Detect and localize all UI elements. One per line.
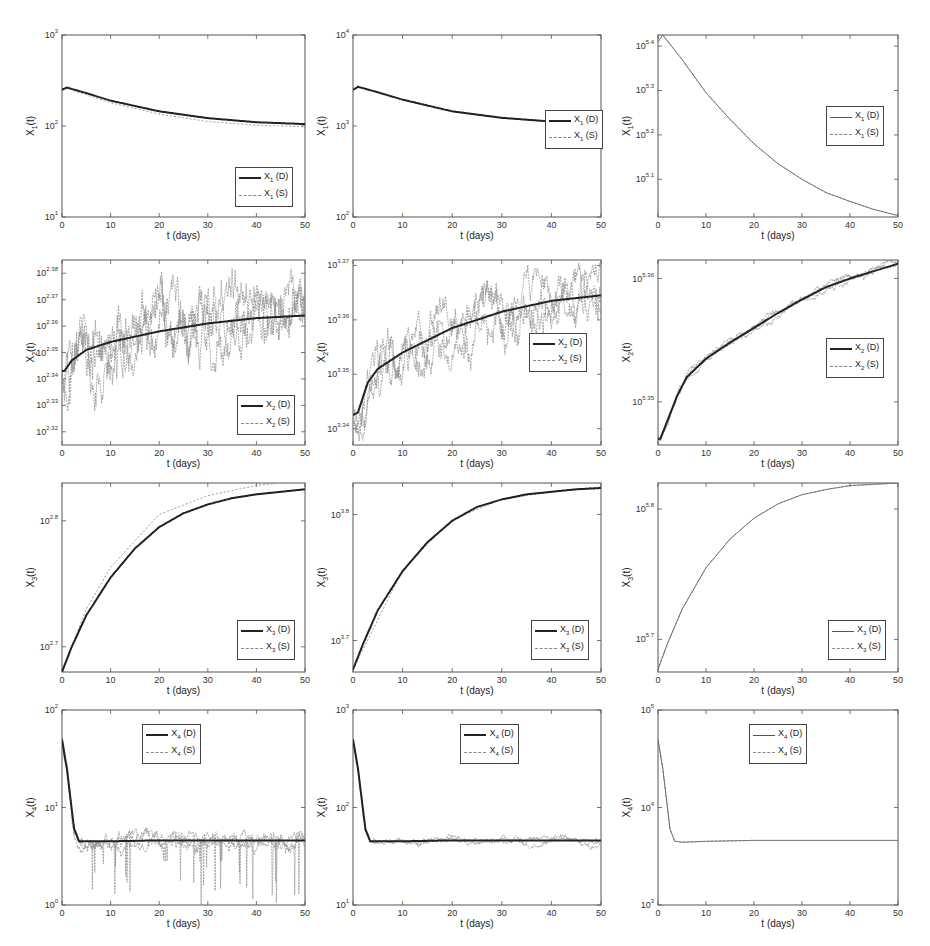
legend-entry: X1 (S)	[239, 187, 288, 204]
x-tick-label: 30	[203, 220, 213, 230]
x-tick-label: 20	[447, 675, 457, 685]
x-tick-label: 30	[497, 675, 507, 685]
x-tick-label: 10	[701, 448, 711, 458]
legend-label: X1 (S)	[574, 129, 598, 146]
x-tick-label: 50	[893, 220, 903, 230]
legend-entry: X4 (D)	[753, 727, 802, 744]
x-tick-label: 0	[59, 675, 64, 685]
x-tick-label: 20	[154, 448, 164, 458]
x-tick-label: 20	[749, 448, 759, 458]
legend-label: X3 (S)	[857, 640, 881, 657]
x-axis-label: t (days)	[460, 918, 493, 929]
x-tick-label: 40	[251, 675, 261, 685]
y-tick-label: 105.35	[632, 395, 654, 407]
x-axis-label: t (days)	[761, 458, 794, 469]
legend-label: X3 (S)	[560, 640, 584, 657]
y-tick-label: 103.8	[331, 508, 350, 520]
x-tick-label: 50	[300, 220, 310, 230]
x-tick-label: 0	[350, 908, 355, 918]
legend-entry: X4 (S)	[753, 744, 802, 761]
legend-entry: X3 (D)	[241, 623, 290, 640]
legend: X2 (D)X2 (S)	[529, 333, 587, 373]
y-tick-label: 103.35	[327, 367, 349, 379]
legend-entry: X2 (D)	[241, 398, 290, 415]
x-axis-label: t (days)	[167, 458, 200, 469]
legend: X1 (D)X1 (S)	[545, 110, 603, 150]
y-tick-label: 102.7	[40, 640, 59, 652]
legend: X4 (D)X4 (S)	[460, 724, 518, 764]
x-tick-label: 10	[398, 675, 408, 685]
x-tick-label: 10	[701, 908, 711, 918]
legend-entry: X3 (S)	[241, 640, 290, 657]
x-axis-label: t (days)	[167, 685, 200, 696]
y-tick-label: 102	[336, 801, 350, 813]
y-tick-label: 103	[336, 119, 350, 131]
y-tick-label: 105	[641, 703, 655, 715]
x-tick-label: 20	[154, 675, 164, 685]
legend-entry: X4 (D)	[146, 727, 195, 744]
x-tick-label: 10	[106, 448, 116, 458]
legend: X2 (D)X2 (S)	[237, 395, 295, 435]
y-tick-label: 102.37	[36, 293, 58, 305]
y-tick-label: 105.3	[636, 83, 655, 95]
legend-swatch	[830, 117, 852, 118]
y-tick-label: 100	[45, 898, 59, 910]
y-tick-label: 105.2	[636, 128, 655, 140]
x-tick-label: 50	[596, 448, 606, 458]
y-tick-label: 104	[336, 28, 350, 40]
subplot-r1c2: 01020304050t (days)102103104X1(t)X1 (D)X…	[353, 35, 601, 217]
y-axis-label: X2(t)	[316, 342, 329, 362]
legend-label: X4 (S)	[778, 744, 802, 761]
x-tick-label: 20	[749, 908, 759, 918]
y-tick-label: 105.1	[636, 172, 655, 184]
y-tick-label: 102.36	[36, 319, 58, 331]
y-tick-label: 102	[45, 703, 59, 715]
legend-entry: X2 (D)	[830, 341, 879, 358]
legend-swatch	[464, 734, 486, 736]
y-tick-label: 104	[641, 801, 655, 813]
legend-entry: X2 (S)	[241, 415, 290, 432]
x-tick-label: 50	[596, 675, 606, 685]
subplot-r2c2: 01020304050t (days)103.34103.35103.36103…	[353, 260, 601, 445]
x-tick-label: 0	[655, 220, 660, 230]
legend-swatch	[830, 348, 852, 350]
legend-entry: X1 (S)	[549, 129, 598, 146]
x-tick-label: 40	[251, 908, 261, 918]
legend-entry: X2 (S)	[533, 352, 582, 369]
legend: X3 (D)X3 (S)	[531, 620, 589, 660]
x-tick-label: 30	[497, 220, 507, 230]
y-tick-label: 103.34	[327, 422, 349, 434]
x-tick-label: 40	[845, 675, 855, 685]
legend-label: X4 (D)	[171, 727, 195, 744]
legend-label: X1 (D)	[574, 113, 598, 130]
x-tick-label: 10	[398, 908, 408, 918]
x-tick-label: 10	[106, 675, 116, 685]
x-tick-label: 0	[655, 908, 660, 918]
y-tick-label: 101	[336, 898, 350, 910]
legend-label: X2 (D)	[266, 398, 290, 415]
subplot-r4c1: 01020304050t (days)100101102X4(t)X4 (D)X…	[62, 710, 305, 905]
y-tick-label: 101	[45, 801, 59, 813]
x-tick-label: 10	[398, 220, 408, 230]
legend-label: X2 (S)	[855, 358, 879, 375]
y-tick-label: 102.35	[36, 346, 58, 358]
x-tick-label: 30	[797, 675, 807, 685]
legend-entry: X4 (D)	[464, 727, 513, 744]
legend-swatch	[535, 648, 557, 649]
x-tick-label: 50	[300, 448, 310, 458]
legend: X1 (D)X1 (S)	[235, 167, 293, 207]
legend-swatch	[832, 631, 854, 632]
legend-label: X3 (S)	[266, 640, 290, 657]
x-axis-label: t (days)	[167, 918, 200, 929]
legend-label: X1 (S)	[855, 126, 879, 143]
legend-label: X1 (D)	[264, 170, 288, 187]
legend-label: X4 (S)	[171, 744, 195, 761]
subplot-r2c1: 01020304050t (days)102.32102.33102.34102…	[62, 260, 305, 445]
legend: X1 (D)X1 (S)	[826, 106, 884, 146]
legend-swatch	[830, 366, 852, 367]
legend-entry: X2 (D)	[533, 336, 582, 353]
y-tick-label: 103.7	[331, 634, 350, 646]
legend-entry: X3 (S)	[535, 640, 584, 657]
legend-swatch	[146, 752, 168, 753]
legend-swatch	[753, 752, 775, 753]
